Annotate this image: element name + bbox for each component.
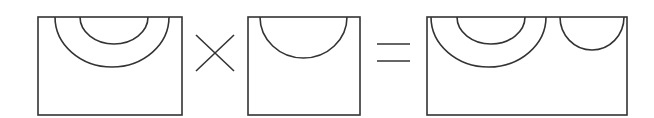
- left-inner-arc: [80, 17, 148, 44]
- result-rectangle: [427, 17, 627, 115]
- right-arc: [260, 17, 347, 58]
- left-rectangle: [38, 17, 182, 115]
- multiply-icon: [196, 35, 234, 71]
- result-figure: [427, 17, 627, 115]
- result-outer-arc: [431, 17, 546, 67]
- left-operand-figure: [38, 17, 182, 115]
- equals-icon: [377, 44, 410, 61]
- result-right-arc: [560, 17, 624, 50]
- left-outer-arc: [55, 17, 169, 67]
- right-operand-figure: [248, 17, 360, 115]
- result-inner-arc: [457, 17, 525, 44]
- right-rectangle: [248, 17, 360, 115]
- diagram-canvas: [0, 0, 654, 118]
